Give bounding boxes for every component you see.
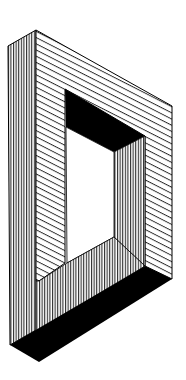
left-side-face [8, 30, 36, 345]
impossible-frame-illustration [0, 0, 186, 380]
impossible-frame-drawing [0, 0, 186, 380]
